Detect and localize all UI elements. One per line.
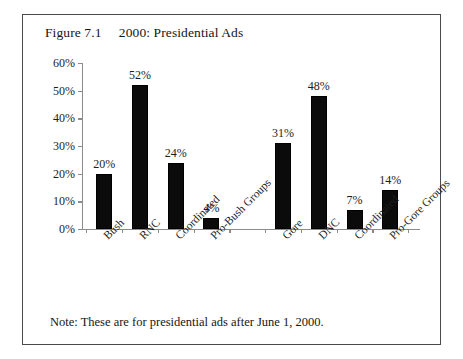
y-tick-mark [78, 146, 82, 147]
figure-note: Note: These are for presidential ads aft… [50, 315, 324, 330]
bar-rnc [132, 85, 148, 229]
y-tick-mark [78, 91, 82, 92]
y-tick-mark [78, 229, 82, 230]
bar-dnc [311, 96, 327, 229]
y-tick-mark [78, 118, 82, 119]
y-tick-label: 60% [53, 56, 75, 71]
y-tick-mark [78, 201, 82, 202]
bar-coordinated [168, 163, 184, 229]
bar-value-label: 7% [347, 193, 363, 208]
y-tick-mark [78, 63, 82, 64]
y-tick-label: 30% [53, 139, 75, 154]
y-tick-label: 10% [53, 194, 75, 209]
figure-root: Figure 7.1 2000: Presidential Ads 0%10%2… [0, 0, 463, 359]
x-axis-category-labels: BushRNCCoordinatedPro-Bush GroupsGoreDNC… [82, 233, 420, 313]
bar-gore [275, 143, 291, 229]
y-tick-label: 50% [53, 83, 75, 98]
y-tick-label: 40% [53, 111, 75, 126]
bar-value-label: 20% [93, 157, 115, 172]
figure-title: Figure 7.1 2000: Presidential Ads [45, 25, 243, 41]
bar-value-label: 24% [165, 146, 187, 161]
y-axis-line [82, 63, 83, 229]
y-tick-label: 0% [59, 222, 75, 237]
bar-value-label: 48% [308, 79, 330, 94]
bar-value-label: 52% [129, 68, 151, 83]
bar-bush [96, 174, 112, 229]
y-tick-label: 20% [53, 166, 75, 181]
bar-value-label: 14% [379, 173, 401, 188]
bar-value-label: 31% [272, 126, 294, 141]
y-tick-mark [78, 174, 82, 175]
